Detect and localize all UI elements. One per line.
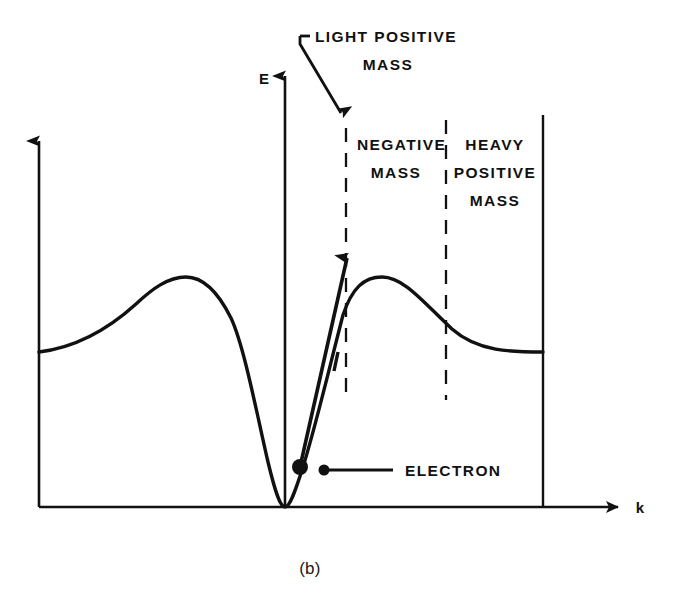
electron-dot [292,459,308,475]
electron-transition-arrow [300,258,347,467]
light-positive-mass-label-line2: MASS [363,56,413,73]
zone-boundary-group [346,120,446,400]
e-axis-label: E [259,70,269,87]
electron-group: ELECTRON [292,258,501,479]
electron-label: ELECTRON [405,462,501,479]
heavy-positive-mass-group: HEAVY POSITIVE MASS [454,136,537,209]
light-positive-mass-group: LIGHT POSITIVE MASS [300,28,457,113]
light-positive-mass-leader-arrow [300,36,341,113]
k-axis-label: k [636,499,645,516]
light-positive-mass-label-line1: LIGHT POSITIVE [315,28,457,45]
figure-caption: (b) [299,559,321,578]
band-structure-figure: k E ELECTRON LIGHT POSITIVE MASS [0,0,682,607]
negative-mass-label-line2: MASS [371,164,421,181]
negative-mass-label-line1: NEGATIVE [357,136,446,153]
axes-group: k E [39,70,645,516]
heavy-positive-mass-label-line2: POSITIVE [454,164,537,181]
heavy-positive-mass-label-line1: HEAVY [465,136,524,153]
negative-mass-group: NEGATIVE MASS [357,136,446,181]
heavy-positive-mass-label-line3: MASS [470,192,520,209]
